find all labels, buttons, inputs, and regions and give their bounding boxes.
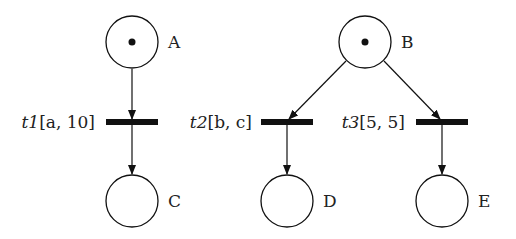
arc-B-t2 <box>289 61 346 119</box>
place-D <box>261 175 313 227</box>
label-transition-t3: t3[5, 5] <box>342 112 405 132</box>
token-B <box>362 39 369 46</box>
label-place-D: D <box>323 191 337 211</box>
place-E <box>416 175 468 227</box>
label-place-A: A <box>167 32 181 52</box>
label-place-E: E <box>478 191 490 211</box>
token-A <box>129 39 136 46</box>
transition-t1 <box>106 119 158 125</box>
transition-t3 <box>416 119 468 125</box>
label-transition-t1: t1[a, 10] <box>22 112 96 132</box>
label-transition-t2: t2[b, c] <box>190 112 252 132</box>
transition-t2 <box>261 119 313 125</box>
arc-B-t3 <box>384 61 440 119</box>
petri-net-diagram: A B C D E t1[a, 10] t2[b, c] t3[5, 5] <box>0 0 516 239</box>
label-place-B: B <box>401 32 414 52</box>
place-C <box>106 175 158 227</box>
label-place-C: C <box>168 191 181 211</box>
